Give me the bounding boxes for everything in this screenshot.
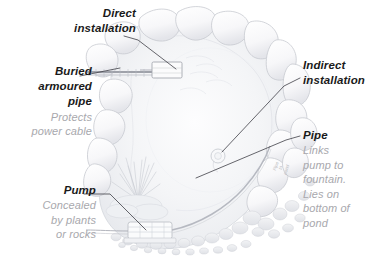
callout-buried-line2: armoured xyxy=(2,79,92,94)
callout-indirect-installation: Indirect installation xyxy=(303,58,381,88)
callout-pipe-body1: Links xyxy=(303,143,381,158)
callout-pump-body1: Concealed xyxy=(2,198,96,213)
callout-pump-body3: or rocks xyxy=(2,227,96,242)
callout-pipe-body3: fountain. xyxy=(303,172,381,187)
pump-unit xyxy=(86,222,176,243)
callout-pipe-line1: Pipe xyxy=(303,128,381,143)
callout-indirect-line2: installation xyxy=(303,73,381,88)
callout-buried-line3: pipe xyxy=(2,94,92,109)
callout-pipe: Pipe Links pump to fountain. Lies on bot… xyxy=(303,128,381,230)
callout-indirect-line1: Indirect xyxy=(303,58,381,73)
callout-pump: Pump Concealed by plants or rocks xyxy=(2,183,96,242)
callout-pump-line1: Pump xyxy=(2,183,96,198)
diagram-page: Direct installation Buried armoured pipe… xyxy=(0,0,382,269)
callout-buried-line1: Buried xyxy=(2,64,92,79)
callout-pipe-body5: bottom of xyxy=(303,201,381,216)
callout-pipe-body4: Lies on xyxy=(303,187,381,202)
callout-buried-armoured-pipe: Buried armoured pipe Protects power cabl… xyxy=(2,64,92,139)
callout-buried-body2: power cable xyxy=(2,124,92,139)
callout-pump-body2: by plants xyxy=(2,213,96,228)
callout-pipe-body6: pond xyxy=(303,216,381,231)
callout-direct-line1: Direct xyxy=(34,6,136,21)
callout-pipe-body2: pump to xyxy=(303,158,381,173)
callout-buried-body1: Protects xyxy=(2,110,92,125)
callout-direct-installation: Direct installation xyxy=(34,6,136,36)
callout-direct-line2: installation xyxy=(34,21,136,36)
